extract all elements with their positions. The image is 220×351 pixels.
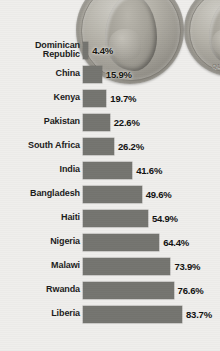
- bar-track: 15.9%: [83, 62, 220, 86]
- bar-row: Pakistan22.6%: [0, 110, 220, 134]
- bar-track: 41.6%: [83, 158, 220, 182]
- bar-track: 19.7%: [83, 86, 220, 110]
- bar-row: Bangladesh49.6%: [0, 182, 220, 206]
- bar-track: 76.6%: [83, 278, 220, 302]
- bar-row: Dominican Republic4.4%: [0, 38, 220, 62]
- bar-row: Kenya19.7%: [0, 86, 220, 110]
- bar-value-label: 54.9%: [152, 213, 178, 224]
- bar-row-label: Liberia: [0, 309, 83, 318]
- bar-row: Malawi73.9%: [0, 254, 220, 278]
- bar-row: Haiti54.9%: [0, 206, 220, 230]
- bar-row: Liberia83.7%: [0, 302, 220, 326]
- bar-value-label: 83.7%: [186, 309, 212, 320]
- bar-row-label: India: [0, 165, 83, 174]
- bar-rows: Dominican Republic4.4%China15.9%Kenya19.…: [0, 38, 220, 326]
- bar-track: 4.4%: [83, 38, 220, 62]
- bar-row-label: South Africa: [0, 141, 83, 150]
- bar-value-label: 64.4%: [163, 237, 189, 248]
- bar: [83, 66, 102, 83]
- bar: [83, 114, 110, 131]
- bar-row-label: Haiti: [0, 213, 83, 222]
- bar-value-label: 4.4%: [92, 45, 113, 56]
- bar: [83, 210, 148, 227]
- bar-row: China15.9%: [0, 62, 220, 86]
- bar: [83, 234, 159, 251]
- bar-value-label: 76.6%: [178, 285, 204, 296]
- bar-track: 83.7%: [83, 302, 220, 326]
- bar-value-label: 19.7%: [110, 93, 136, 104]
- bar-track: 54.9%: [83, 206, 220, 230]
- bar-row: Rwanda76.6%: [0, 278, 220, 302]
- bar-row-label: Dominican Republic: [0, 41, 83, 59]
- bar-value-label: 22.6%: [114, 117, 140, 128]
- bar-row: Nigeria64.4%: [0, 230, 220, 254]
- bar-row-label: Pakistan: [0, 117, 83, 126]
- bar-row-label: Nigeria: [0, 237, 83, 246]
- bar: [83, 258, 170, 275]
- bar-track: 64.4%: [83, 230, 220, 254]
- bar-track: 49.6%: [83, 182, 220, 206]
- bar: [83, 186, 142, 203]
- bar-value-label: 49.6%: [146, 189, 172, 200]
- bar: [83, 90, 106, 107]
- bar: [83, 306, 182, 323]
- bar-row-label: Rwanda: [0, 285, 83, 294]
- bar-value-label: 41.6%: [136, 165, 162, 176]
- bar: [83, 42, 88, 59]
- bar-track: 22.6%: [83, 110, 220, 134]
- bar-row-label: Bangladesh: [0, 189, 83, 198]
- bar-row-label: Malawi: [0, 261, 83, 270]
- horizontal-bar-chart: LIBERTY QUARTER Dominican Republic4.4%Ch…: [0, 0, 220, 351]
- bar-track: 73.9%: [83, 254, 220, 278]
- bar-row-label: China: [0, 69, 83, 78]
- bar-row-label: Kenya: [0, 93, 83, 102]
- bar: [83, 162, 132, 179]
- bar-row: South Africa26.2%: [0, 134, 220, 158]
- bar-value-label: 15.9%: [106, 69, 132, 80]
- bar-value-label: 73.9%: [174, 261, 200, 272]
- bar: [83, 138, 114, 155]
- bar-track: 26.2%: [83, 134, 220, 158]
- bar: [83, 282, 174, 299]
- bar-value-label: 26.2%: [118, 141, 144, 152]
- bar-row: India41.6%: [0, 158, 220, 182]
